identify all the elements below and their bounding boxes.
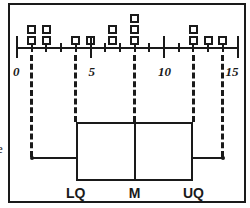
dot-square (27, 25, 36, 34)
axis-tick-4 (75, 43, 77, 52)
dot-square (108, 25, 117, 34)
axis-tick-15 (237, 36, 239, 58)
axis-tick-7 (119, 43, 121, 52)
axis-label-10: 10 (158, 64, 171, 80)
axis-tick-0 (16, 36, 18, 58)
axis-tick-9 (148, 43, 150, 52)
axis-tick-6 (104, 43, 106, 52)
connector-minimum (30, 55, 33, 157)
axis-tick-2 (45, 43, 47, 52)
axis-tick-13 (207, 43, 209, 52)
dot-square (189, 25, 198, 34)
box-plot-median-line (134, 122, 136, 181)
connector-lower-quartile (74, 55, 77, 122)
axis-tick-14 (222, 43, 224, 52)
plot-area: 051015 LQMUQ (0, 0, 250, 208)
dot-square (130, 25, 139, 34)
axis-tick-10 (163, 36, 165, 58)
axis-tick-12 (192, 43, 194, 52)
dot-square (108, 36, 117, 45)
dot-square (130, 14, 139, 23)
dot-plot-box-plot-figure: e 051015 LQMUQ (0, 0, 250, 208)
axis-tick-1 (31, 43, 33, 52)
axis-tick-5 (90, 36, 92, 58)
dot-square (42, 25, 51, 34)
axis-line (16, 47, 239, 49)
axis-label-15: 15 (226, 64, 239, 80)
axis-tick-8 (134, 43, 136, 52)
whisker-cap-min (30, 156, 34, 160)
box-plot-label-uq: UQ (178, 185, 208, 201)
whisker-cap-max (221, 156, 225, 160)
connector-median (133, 55, 136, 122)
axis-label-0: 0 (13, 64, 20, 80)
axis-tick-3 (60, 43, 62, 52)
box-plot-whisker-min (32, 157, 76, 159)
connector-maximum (221, 55, 224, 157)
connector-upper-quartile (192, 55, 195, 122)
axis-label-5: 5 (89, 64, 96, 80)
box-plot-label-m: M (120, 185, 150, 201)
box-plot-whisker-max (193, 157, 222, 159)
axis-tick-11 (178, 43, 180, 52)
box-plot-label-lq: LQ (61, 185, 91, 201)
